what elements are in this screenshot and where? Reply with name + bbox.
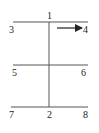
label-7: 7: [9, 109, 14, 120]
label-1: 1: [47, 10, 52, 21]
diagram: 1 3 4 5 6 7 2 8: [0, 0, 99, 133]
label-8: 8: [83, 109, 88, 120]
label-6: 6: [81, 67, 86, 78]
label-3: 3: [9, 24, 14, 35]
label-5: 5: [12, 67, 17, 78]
label-4: 4: [83, 24, 88, 35]
label-2: 2: [47, 109, 52, 120]
